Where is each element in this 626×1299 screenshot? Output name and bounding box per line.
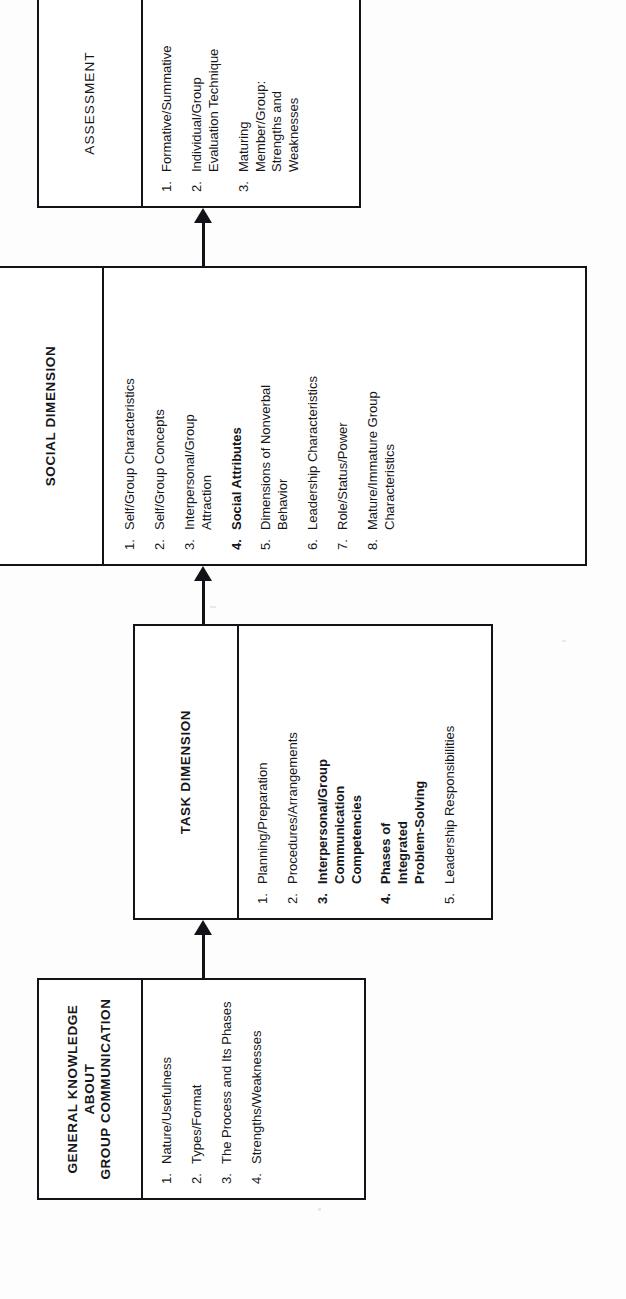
arrow-head-icon [194, 920, 212, 935]
list-item-number: 2. [189, 1164, 206, 1184]
list-item-number: 1. [159, 172, 176, 192]
list-item: 2. Types/Format [189, 994, 206, 1184]
header-line: ABOUT [82, 1064, 98, 1115]
node-social-dimension[interactable]: SOCIAL DIMENSION 1. Self/Group Character… [0, 266, 587, 566]
list-item-label: Role/Status/Power [335, 282, 352, 530]
arrow-shaft [202, 580, 205, 624]
list-item: 1. Planning/Preparation [255, 640, 272, 904]
list-item: 1. Nature/Usefulness [159, 994, 176, 1184]
list-item-number: 5. [258, 530, 275, 550]
list-item: 7. Role/Status/Power [335, 282, 352, 550]
list-item-label: Leadership Responsibilities [442, 640, 459, 884]
list-item-label: Interpersonal/Group Attraction [182, 400, 216, 530]
list-item-label: Self/Group Concepts [152, 282, 169, 530]
node-task-dimension-body: 1. Planning/Preparation 2. Procedures/Ar… [239, 626, 491, 918]
list-item-label: Formative/Summative [159, 14, 176, 172]
list-item-number: 4. [249, 1164, 266, 1184]
list-item-label: Dimensions of Nonverbal Behavior [258, 375, 292, 530]
node-general-knowledge[interactable]: GENERAL KNOWLEDGE ABOUT GROUP COMMUNICAT… [37, 978, 366, 1200]
list-item-number: 5. [442, 884, 459, 904]
list-item-number: 2. [285, 884, 302, 904]
list-item: 4. Social Attributes [229, 282, 246, 550]
list-item-number: 3. [315, 884, 332, 904]
header-line: TASK DIMENSION [178, 710, 194, 834]
header-line: GROUP COMMUNICATION [98, 998, 114, 1179]
list-item-label: Social Attributes [229, 282, 246, 530]
list-item-label: Maturing Member/Group: Strengths and Wea… [236, 27, 304, 172]
list-item: 4. Strengths/Weaknesses [249, 994, 266, 1184]
list-item-label: Planning/Preparation [255, 640, 272, 884]
list-item-label: Mature/Immature Group Characteristics [365, 380, 399, 530]
list-item-number: 3. [236, 172, 253, 192]
arrow-head-icon [194, 208, 212, 223]
list-item-number: 1. [159, 1164, 176, 1184]
node-assessment[interactable]: ASSESSMENT 1. Formative/Summative 2. Ind… [37, 0, 361, 208]
list-item: 1. Formative/Summative [159, 14, 176, 192]
list-item-number: 8. [365, 530, 382, 550]
list-item-label: Leadership Characteristics [305, 282, 322, 530]
list-item-label: Self/Group Characteristics [122, 282, 139, 530]
list-item: 2. Procedures/Arrangements [285, 640, 302, 904]
list-item-number: 4. [229, 530, 246, 550]
list-item: 5. Dimensions of Nonverbal Behavior [258, 375, 292, 550]
list-item: 8. Mature/Immature Group Characteristics [365, 380, 399, 550]
list-item: 3. The Process and Its Phases [219, 994, 236, 1184]
node-assessment-header: ASSESSMENT [39, 0, 143, 206]
header-line: GENERAL KNOWLEDGE [65, 1005, 81, 1174]
header-line: ASSESSMENT [82, 51, 98, 154]
list-item: 2. Self/Group Concepts [152, 282, 169, 550]
list-item-number: 6. [305, 530, 322, 550]
list-item-label: Nature/Usefulness [159, 994, 176, 1164]
list-item-number: 2. [152, 530, 169, 550]
list-item-number: 3. [219, 1164, 236, 1184]
list-item-number: 2. [189, 172, 206, 192]
node-task-dimension[interactable]: TASK DIMENSION 1. Planning/Preparation 2… [133, 624, 493, 920]
list-item: 5. Leadership Responsibilities [442, 640, 459, 904]
list-item-label: The Process and Its Phases [219, 994, 236, 1164]
list-item: 3. Maturing Member/Group: Strengths and … [236, 27, 304, 192]
list-item-label: Individual/Group Evaluation Technique [189, 42, 223, 172]
list-item-label: Strengths/Weaknesses [249, 994, 266, 1164]
diagram-stage: GENERAL KNOWLEDGE ABOUT GROUP COMMUNICAT… [0, 0, 626, 1299]
list-item-number: 1. [255, 884, 272, 904]
node-task-dimension-header: TASK DIMENSION [135, 626, 239, 918]
arrow-head-icon [194, 566, 212, 581]
list-item-label: Types/Format [189, 994, 206, 1164]
list-item: 3. Interpersonal/Group Attraction [182, 400, 216, 550]
node-general-knowledge-header: GENERAL KNOWLEDGE ABOUT GROUP COMMUNICAT… [39, 980, 143, 1198]
list-item: 2. Individual/Group Evaluation Technique [189, 42, 223, 192]
arrow-shaft [202, 934, 205, 978]
list-item-number: 7. [335, 530, 352, 550]
list-item-label: Phases of Integrated Problem-Solving [378, 764, 429, 884]
node-social-dimension-header: SOCIAL DIMENSION [0, 268, 104, 564]
list-item: 4. Phases of Integrated Problem-Solving [378, 764, 429, 904]
list-item-number: 4. [378, 884, 395, 904]
list-item: 1. Self/Group Characteristics [122, 282, 139, 550]
list-item-label: Interpersonal/Group Communication Compet… [315, 754, 366, 884]
list-item: 3. Interpersonal/Group Communication Com… [315, 754, 366, 904]
node-general-knowledge-body: 1. Nature/Usefulness 2. Types/Format 3. … [143, 980, 364, 1198]
node-social-dimension-body: 1. Self/Group Characteristics 2. Self/Gr… [104, 268, 585, 564]
node-assessment-body: 1. Formative/Summative 2. Individual/Gro… [143, 0, 359, 206]
arrow-shaft [202, 222, 205, 266]
header-line: SOCIAL DIMENSION [43, 346, 59, 487]
list-item-label: Procedures/Arrangements [285, 640, 302, 884]
diagram-page: GENERAL KNOWLEDGE ABOUT GROUP COMMUNICAT… [0, 0, 626, 1299]
list-item-number: 1. [122, 530, 139, 550]
list-item: 6. Leadership Characteristics [305, 282, 322, 550]
list-item-number: 3. [182, 530, 199, 550]
